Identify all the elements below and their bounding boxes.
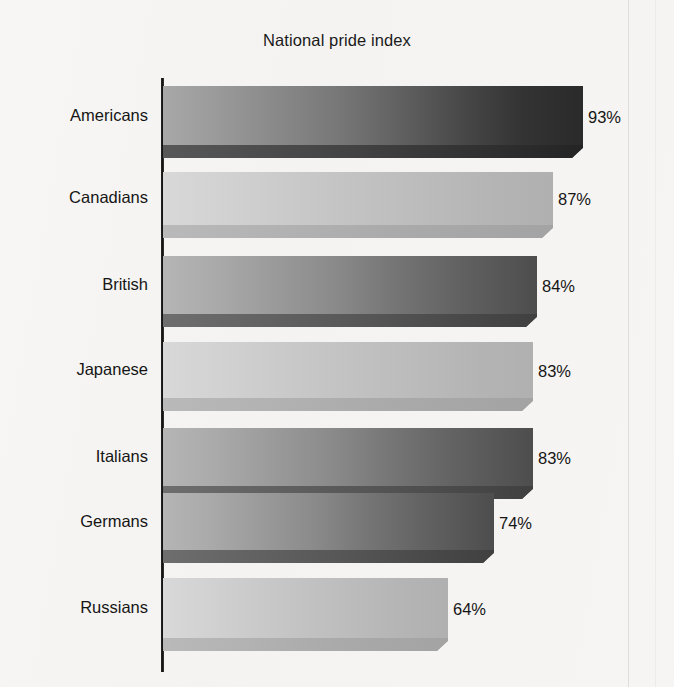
category-label-germans: Germans [0,512,148,531]
category-label-italians: Italians [0,447,148,466]
category-label-canadians: Canadians [0,188,148,207]
category-label-british: British [0,275,148,294]
bar-russians [163,578,448,651]
bar-bottom-shadow-face [163,398,533,411]
bar-japanese [163,342,533,411]
bar-canadians [163,172,553,238]
value-label-americans: 93% [588,108,621,127]
bar-bottom-shadow-face [163,145,583,158]
category-label-japanese: Japanese [0,360,148,379]
bar-bottom-shadow-face [163,550,494,563]
value-label-germans: 74% [499,514,532,533]
chart-figure: National pride index Americans93%Canadia… [0,0,674,687]
category-label-americans: Americans [0,106,148,125]
bar-british [163,256,537,327]
value-label-canadians: 87% [558,190,591,209]
bar-americans [163,86,583,158]
bar-bottom-shadow-face [163,314,537,327]
value-label-japanese: 83% [538,362,571,381]
bar-italians [163,428,533,499]
bar-bottom-shadow-face [163,225,553,238]
plot-area: Americans93%Canadians87%British84%Japane… [0,0,674,687]
value-label-russians: 64% [453,600,486,619]
bar-bottom-shadow-face [163,638,448,651]
category-label-russians: Russians [0,598,148,617]
bar-germans [163,493,494,563]
value-label-british: 84% [542,277,575,296]
value-label-italians: 83% [538,449,571,468]
